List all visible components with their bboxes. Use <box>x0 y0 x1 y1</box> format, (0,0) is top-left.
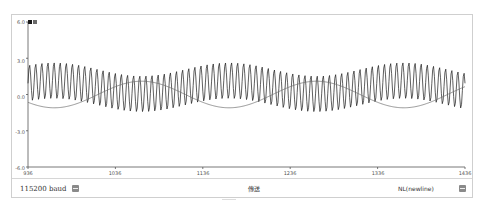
baud-rate-label: 115200 baud <box>20 185 67 193</box>
x-tick-label: 1336 <box>372 170 385 176</box>
message-input[interactable] <box>82 183 246 195</box>
legend-swatch-series-1 <box>28 20 32 24</box>
y-tick-label: 6.0 <box>11 19 25 25</box>
line-ending-select[interactable] <box>459 185 466 192</box>
line-chart <box>12 15 472 178</box>
y-tick-label: 0.0 <box>11 94 25 100</box>
send-button[interactable]: 傳送 <box>248 184 260 193</box>
serial-plotter-window: 6.0 3.0 0.0 -3.0 -6.0 936 1036 1136 1236… <box>11 14 473 198</box>
y-tick-label: -3.0 <box>11 129 25 135</box>
bottom-toolbar: 115200 baud 傳送 NL(newline) <box>12 178 472 198</box>
x-tick-label: 936 <box>23 170 33 176</box>
line-ending-label: NL(newline) <box>398 185 434 192</box>
baud-rate-select[interactable] <box>72 185 79 192</box>
legend-swatch-series-2 <box>33 20 37 24</box>
legend <box>28 20 37 24</box>
resize-grip[interactable] <box>222 199 236 200</box>
x-tick-label: 1036 <box>109 170 122 176</box>
x-tick-label: 1236 <box>284 170 297 176</box>
y-tick-label: 3.0 <box>11 58 25 64</box>
plot-area: 6.0 3.0 0.0 -3.0 -6.0 936 1036 1136 1236… <box>12 15 472 178</box>
x-tick-label: 1136 <box>197 170 210 176</box>
x-tick-label: 1436 <box>459 170 472 176</box>
